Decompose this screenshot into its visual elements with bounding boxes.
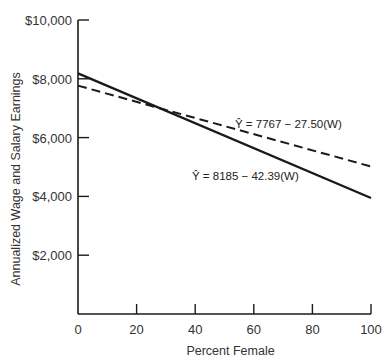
y-tick-label: $6,000 <box>32 131 72 146</box>
x-ticks: 020406080100 <box>74 304 381 337</box>
x-axis-label: Percent Female <box>186 344 274 358</box>
regression-chart: $2,000$4,000$6,000$8,000$10,000 02040608… <box>0 0 392 361</box>
equation-label-solid: Ŷ = 8185 − 42.39(W) <box>192 170 299 182</box>
y-tick-label: $8,000 <box>32 72 72 87</box>
y-axis-label: Annualized Wage and Salary Earnings <box>9 72 23 286</box>
axes <box>78 20 371 314</box>
y-ticks: $2,000$4,000$6,000$8,000$10,000 <box>25 13 89 263</box>
equation-label-dashed: Ŷ = 7767 − 27.50(W) <box>235 118 342 130</box>
x-tick-label: 80 <box>305 322 319 337</box>
y-tick-label: $10,000 <box>25 13 72 28</box>
x-tick-label: 0 <box>74 322 81 337</box>
x-tick-label: 20 <box>129 322 143 337</box>
x-tick-label: 40 <box>188 322 202 337</box>
y-tick-label: $4,000 <box>32 189 72 204</box>
annotations: Ŷ = 7767 − 27.50(W)Ŷ = 8185 − 42.39(W) <box>192 118 342 182</box>
x-tick-label: 100 <box>360 322 382 337</box>
x-tick-label: 60 <box>247 322 261 337</box>
y-tick-label: $2,000 <box>32 248 72 263</box>
